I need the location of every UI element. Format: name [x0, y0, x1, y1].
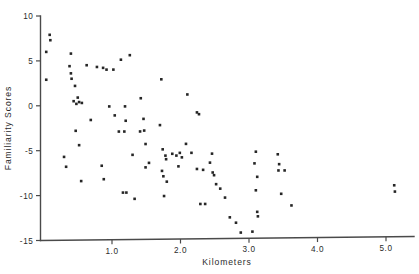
- data-point: [185, 143, 188, 146]
- data-point: [229, 216, 232, 219]
- data-point: [280, 193, 283, 196]
- data-point: [190, 152, 193, 155]
- scatter-plot-figure: 1050-5-10-15 1.02.03.04.05.0 Kilometers …: [0, 0, 419, 274]
- data-point: [215, 183, 218, 186]
- data-point: [224, 196, 227, 199]
- data-point: [118, 130, 121, 133]
- data-point: [171, 153, 174, 156]
- data-point: [63, 156, 66, 159]
- data-point: [181, 156, 184, 159]
- data-point: [277, 169, 280, 172]
- data-point: [256, 211, 259, 214]
- data-point: [124, 119, 127, 122]
- data-point: [49, 39, 52, 42]
- data-point: [124, 105, 127, 108]
- y-tick-label-5: 5: [28, 57, 33, 66]
- data-point: [78, 144, 81, 147]
- data-point: [74, 85, 77, 88]
- data-point: [108, 105, 111, 108]
- data-point: [70, 52, 73, 55]
- data-point: [163, 195, 166, 198]
- data-points-layer: [45, 34, 396, 234]
- data-point: [74, 130, 77, 133]
- data-point: [89, 119, 92, 122]
- data-point: [199, 203, 202, 206]
- data-point: [102, 178, 105, 181]
- data-point: [112, 68, 115, 71]
- data-point: [80, 180, 83, 183]
- data-point: [123, 130, 126, 133]
- data-point: [48, 34, 51, 37]
- data-point: [160, 78, 163, 81]
- data-point: [142, 118, 145, 121]
- y-tick-label-0: 0: [28, 102, 33, 111]
- data-point: [213, 174, 216, 177]
- data-point: [278, 163, 281, 166]
- data-point: [255, 189, 258, 192]
- data-point: [100, 164, 103, 167]
- data-point: [202, 169, 205, 172]
- data-point: [139, 97, 142, 100]
- data-point: [68, 65, 71, 68]
- data-point: [276, 153, 279, 156]
- data-point: [85, 64, 88, 67]
- data-point: [65, 165, 68, 168]
- data-point: [186, 93, 189, 96]
- data-point: [159, 124, 162, 127]
- data-point: [148, 162, 151, 165]
- y-axis-title: Familiarity Scores: [3, 86, 13, 170]
- data-point: [81, 102, 84, 105]
- data-point: [239, 231, 242, 234]
- data-point: [211, 152, 214, 155]
- x-axis-title: Kilometers: [202, 257, 252, 267]
- data-point: [144, 166, 147, 169]
- data-point: [251, 230, 254, 233]
- data-point: [133, 198, 136, 201]
- data-point: [196, 168, 199, 171]
- y-tick-label--10: -10: [20, 192, 34, 201]
- data-point: [177, 165, 180, 168]
- plot-canvas: 1050-5-10-15 1.02.03.04.05.0 Kilometers …: [0, 0, 419, 274]
- y-tick-label--5: -5: [25, 147, 33, 156]
- y-tick-label--15: -15: [20, 237, 34, 246]
- data-point: [120, 58, 123, 61]
- data-point: [70, 77, 73, 80]
- data-point: [393, 184, 396, 187]
- data-point: [113, 114, 116, 117]
- data-point: [143, 129, 146, 132]
- data-point: [161, 170, 164, 173]
- data-point: [256, 176, 259, 179]
- x-tick-label-2.0: 2.0: [174, 246, 187, 255]
- data-point: [164, 154, 167, 157]
- data-point: [96, 66, 99, 69]
- x-tick-label-4.0: 4.0: [311, 245, 324, 254]
- data-point: [45, 78, 48, 81]
- y-axis-ticks: 1050-5-10-15: [20, 12, 41, 246]
- data-point: [198, 113, 201, 116]
- data-point: [75, 103, 78, 106]
- x-tick-label-1.0: 1.0: [105, 247, 118, 256]
- data-point: [72, 100, 75, 103]
- data-point: [204, 203, 207, 206]
- data-point: [139, 130, 142, 133]
- data-point: [290, 204, 293, 207]
- x-tick-label-5.0: 5.0: [379, 244, 392, 253]
- data-point: [235, 221, 238, 224]
- data-point: [102, 67, 105, 70]
- data-point: [257, 215, 260, 218]
- data-point: [209, 161, 212, 164]
- data-point: [45, 51, 48, 54]
- data-point: [122, 191, 125, 194]
- data-point: [76, 96, 79, 99]
- data-point: [162, 175, 165, 178]
- y-tick-label-10: 10: [23, 12, 33, 21]
- data-point: [253, 162, 256, 165]
- data-point: [255, 150, 258, 153]
- data-point: [394, 190, 397, 193]
- data-point: [78, 101, 81, 104]
- data-point: [144, 143, 147, 146]
- data-point: [125, 191, 128, 194]
- data-point: [219, 187, 222, 190]
- data-point: [211, 171, 214, 174]
- x-axis-line: [41, 237, 415, 241]
